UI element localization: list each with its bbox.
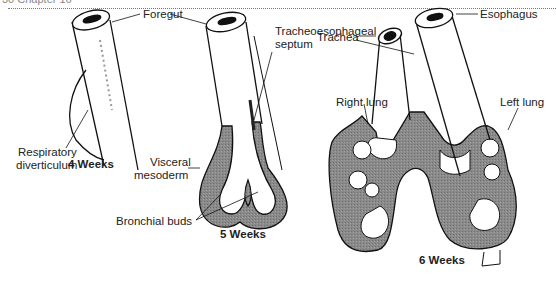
label-esophagus: Esophagus bbox=[480, 8, 538, 21]
stage-label-4-weeks: 4 Weeks bbox=[68, 158, 114, 170]
stage-label-6-weeks: 6 Weeks bbox=[419, 254, 465, 266]
label-bronchial-buds: Bronchial buds bbox=[116, 215, 192, 228]
stage-5-weeks-drawing bbox=[170, 9, 287, 229]
label-foregut: Foregut bbox=[143, 8, 183, 21]
label-tracheoesophageal-septum-line2: septum bbox=[275, 38, 313, 51]
label-left-lung: Left lung bbox=[500, 96, 544, 109]
stage-4-weeks-drawing bbox=[66, 6, 140, 170]
label-visceral-mesoderm-line2: mesoderm bbox=[134, 169, 188, 182]
label-visceral-mesoderm-line1: Visceral bbox=[150, 156, 191, 169]
label-trachea: Trachea bbox=[317, 31, 359, 44]
stage-label-5-weeks: 5 Weeks bbox=[220, 228, 266, 240]
label-right-lung: Right lung bbox=[336, 96, 388, 109]
stage-6-weeks-drawing bbox=[329, 5, 518, 266]
